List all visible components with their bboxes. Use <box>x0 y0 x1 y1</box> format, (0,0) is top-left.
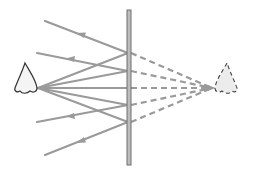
incident-ray-5 <box>38 88 128 122</box>
virtual-rays <box>131 53 216 122</box>
reflected-ray-5 <box>45 122 128 155</box>
virtual-ray-1 <box>131 53 212 88</box>
incident-rays <box>38 53 128 122</box>
virtual-ray-4 <box>131 88 212 105</box>
virtual-ray-5 <box>131 88 212 122</box>
incident-ray-4 <box>38 88 128 105</box>
arrow-icon <box>66 56 75 62</box>
plane-mirror-diagram <box>0 0 258 175</box>
virtual-focus-arrow-icon <box>204 84 216 92</box>
reflected-ray-1 <box>45 21 128 53</box>
real-nose-icon <box>15 63 37 93</box>
plane-mirror <box>127 10 131 165</box>
reflected-ray-2 <box>37 53 128 71</box>
incident-ray-1 <box>38 53 128 88</box>
reflected-ray-4 <box>37 105 128 122</box>
arrow-icon <box>76 137 86 143</box>
virtual-ray-2 <box>131 71 212 88</box>
arrow-icon <box>66 113 75 119</box>
virtual-nose-icon <box>215 63 237 93</box>
incident-ray-2 <box>38 71 128 88</box>
